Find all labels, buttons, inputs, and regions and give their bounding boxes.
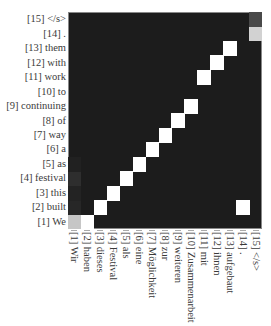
heatmap-cell <box>81 70 94 85</box>
heatmap-cell <box>210 215 223 230</box>
heatmap-cell <box>197 142 210 157</box>
heatmap-cell <box>146 12 159 27</box>
heatmap-cell <box>159 70 172 85</box>
heatmap-cell <box>81 171 94 186</box>
heatmap-cell <box>171 157 184 172</box>
heatmap-cell <box>184 113 197 128</box>
heatmap-cell <box>120 41 133 56</box>
x-axis-tick <box>162 230 168 231</box>
y-axis-label: [3] this <box>36 187 66 199</box>
heatmap-cell <box>133 157 146 172</box>
heatmap-cell <box>249 70 262 85</box>
heatmap-cell <box>184 142 197 157</box>
heatmap-cell <box>159 12 172 27</box>
heatmap-cell <box>184 41 197 56</box>
y-axis-label: [8] of <box>42 115 66 127</box>
heatmap-cell <box>120 186 133 201</box>
heatmap-cell <box>68 99 81 114</box>
x-axis-label: [5] als <box>120 232 132 259</box>
heatmap-cell <box>159 113 172 128</box>
heatmap-cell <box>236 157 249 172</box>
heatmap-cell <box>107 200 120 215</box>
heatmap-cell <box>68 186 81 201</box>
x-axis-tick <box>188 230 194 231</box>
heatmap-cell <box>223 157 236 172</box>
x-axis-label: [2] haben <box>81 232 93 272</box>
heatmap-cell <box>68 142 81 157</box>
y-axis-label: [15] </s> <box>27 13 66 25</box>
heatmap-cell <box>94 12 107 27</box>
heatmap-cell <box>159 41 172 56</box>
heatmap-cell <box>146 186 159 201</box>
heatmap-cell <box>120 55 133 70</box>
heatmap-cell <box>236 12 249 27</box>
heatmap-cell <box>236 113 249 128</box>
heatmap-cell <box>107 41 120 56</box>
heatmap-cell <box>197 70 210 85</box>
attention-heatmap-chart: [1] We[2] built[3] this[4] festival[5] a… <box>0 0 271 326</box>
heatmap-cell <box>133 142 146 157</box>
heatmap-cell <box>159 186 172 201</box>
x-axis-tick <box>84 230 90 231</box>
heatmap-cell <box>184 12 197 27</box>
y-axis-label: [13] them <box>25 42 66 54</box>
heatmap-cell <box>171 84 184 99</box>
heatmap-cell <box>184 157 197 172</box>
heatmap-cell <box>184 215 197 230</box>
heatmap-cell <box>197 200 210 215</box>
heatmap-cell <box>236 186 249 201</box>
heatmap-cell <box>94 84 107 99</box>
x-axis-label: [11] mit <box>198 232 210 266</box>
heatmap-cell <box>236 171 249 186</box>
y-axis-label: [11] work <box>25 71 66 83</box>
heatmap-cell <box>210 171 223 186</box>
heatmap-cell <box>210 12 223 27</box>
heatmap-cell <box>171 55 184 70</box>
heatmap-cell <box>94 142 107 157</box>
heatmap-cell <box>81 113 94 128</box>
x-axis-tick <box>71 230 77 231</box>
y-axis-label: [12] with <box>27 57 66 69</box>
heatmap-cell <box>107 215 120 230</box>
heatmap-cell <box>133 113 146 128</box>
heatmap-cell <box>210 55 223 70</box>
x-axis-label: [3] dieses <box>94 232 106 273</box>
heatmap-cell <box>210 26 223 41</box>
heatmap-cell <box>107 55 120 70</box>
heatmap-cell <box>94 171 107 186</box>
heatmap-cell <box>107 142 120 157</box>
heatmap-cell <box>171 128 184 143</box>
x-axis-label: [13] aufgebaut <box>224 232 236 294</box>
heatmap-cell <box>146 157 159 172</box>
heatmap-cell <box>81 12 94 27</box>
heatmap-cell <box>133 84 146 99</box>
heatmap-cell <box>249 186 262 201</box>
heatmap-cell <box>197 128 210 143</box>
heatmap-cell <box>184 84 197 99</box>
y-axis-label: [4] festival <box>20 172 66 184</box>
heatmap-cell <box>159 84 172 99</box>
heatmap-cell <box>68 171 81 186</box>
heatmap-cell <box>81 128 94 143</box>
heatmap-cell <box>184 200 197 215</box>
heatmap-cell <box>171 215 184 230</box>
heatmap-cell <box>249 84 262 99</box>
heatmap-cell <box>68 55 81 70</box>
heatmap-cell <box>249 12 262 27</box>
heatmap-cell <box>236 200 249 215</box>
y-axis-label: [5] as <box>42 158 66 170</box>
heatmap-cell <box>171 186 184 201</box>
heatmap-cell <box>223 99 236 114</box>
x-axis-label: [4] Festival <box>107 232 119 280</box>
x-axis-tick <box>201 230 207 231</box>
heatmap-cell <box>146 99 159 114</box>
heatmap-cell <box>107 128 120 143</box>
x-axis-tick <box>214 230 220 231</box>
heatmap-cell <box>159 215 172 230</box>
heatmap-cell <box>197 113 210 128</box>
x-axis-tick <box>97 230 103 231</box>
heatmap-cell <box>197 84 210 99</box>
heatmap-cell <box>146 70 159 85</box>
heatmap-cell <box>107 12 120 27</box>
heatmap-cell <box>171 113 184 128</box>
